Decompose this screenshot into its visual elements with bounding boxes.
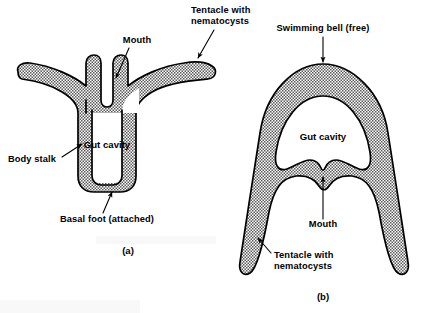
polyp-tentacle-leader: [198, 30, 214, 58]
polyp-figure: Gut cavity Mouth Tentacle with nematocys…: [8, 5, 251, 256]
figure-root: Gut cavity Mouth Tentacle with nematocys…: [0, 0, 430, 313]
polyp-tentacle-label-line1: Tentacle with: [191, 5, 251, 15]
panel-b-caption: (b): [317, 291, 329, 302]
polyp-mouth-label: Mouth: [123, 35, 152, 45]
polyp-tentacle-label-line2: nematocysts: [191, 16, 249, 26]
polyp-body-stalk-label: Body stalk: [8, 154, 57, 164]
medusa-tentacle-label-line2: nematocysts: [274, 261, 332, 271]
medusa-tentacle-label-line1: Tentacle with: [274, 250, 334, 260]
medusa-swimming-bell-label: Swimming bell (free): [277, 23, 370, 33]
polyp-gut-cavity-label: Gut cavity: [84, 139, 131, 150]
panel-a-caption: (a): [122, 245, 134, 256]
polyp-basal-foot-label: Basal foot (attached): [60, 214, 154, 224]
medusa-gut-cavity-label: Gut cavity: [300, 131, 347, 142]
medusa-mouth-label: Mouth: [309, 219, 338, 229]
medusa-figure: Gut cavity Swimming bell (free) Mouth Te…: [240, 23, 409, 302]
polyp-basal-foot-leader: [103, 192, 112, 213]
cnidarian-body-forms-diagram: Gut cavity Mouth Tentacle with nematocys…: [0, 0, 430, 313]
polyp-mouth-opening: [103, 58, 111, 100]
